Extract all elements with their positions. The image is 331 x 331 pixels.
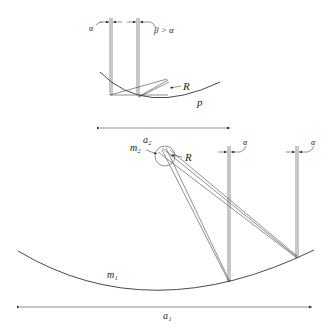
label-alpha-1: α [243,138,248,147]
label-a2: a₂ [143,134,152,145]
label-beta-gt-alpha: β > α [153,25,174,35]
label-alpha-2: α [311,138,316,147]
label-m1: m₁ [107,269,118,280]
label-alpha-top: α [89,24,94,33]
label-a1: a₁ [163,310,171,321]
mirror-m1-curve [18,250,314,290]
label-p: p [196,96,203,108]
mirror-p-curve [100,72,220,98]
label-R-top: R [182,80,190,92]
label-m2: m₂ [130,142,141,153]
top-diagram: α β > α R p a₂ [89,18,230,145]
label-R-bottom: R [184,151,192,163]
bottom-diagram: α α m₂ R m₁ a₁ [18,138,316,321]
concentrator-diagram: α β > α R p a₂ α α m₂ [0,0,331,331]
